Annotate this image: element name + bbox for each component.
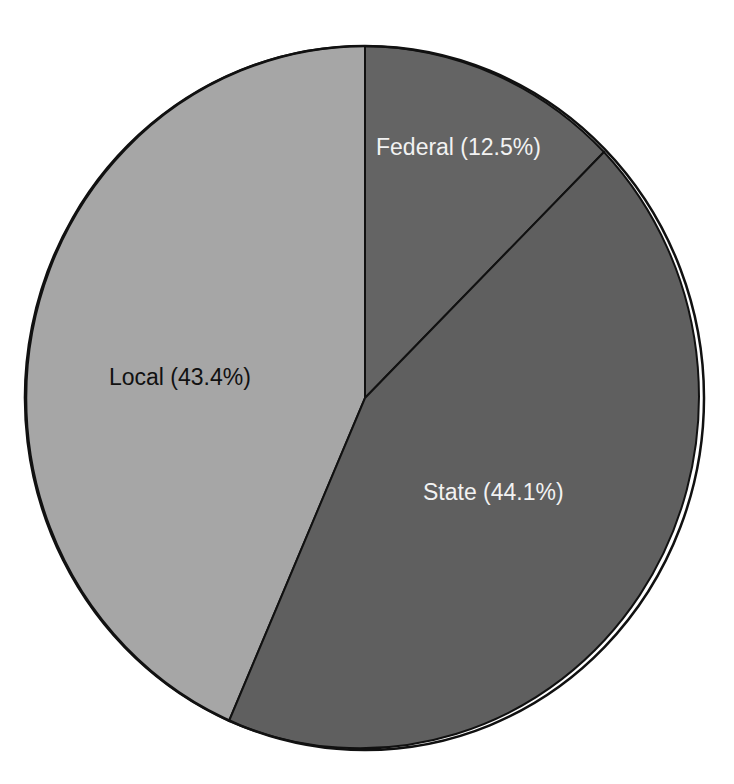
- label-state: State (44.1%): [423, 481, 564, 504]
- pie-chart: [0, 0, 734, 784]
- label-federal: Federal (12.5%): [376, 136, 541, 159]
- label-local: Local (43.4%): [109, 366, 251, 389]
